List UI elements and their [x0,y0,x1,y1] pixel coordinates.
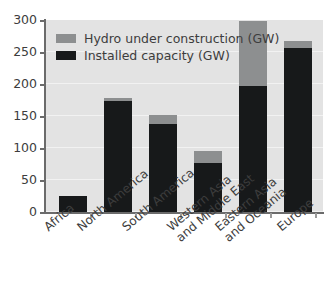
x-tick-mark [315,213,317,218]
y-tick-label-150: 150 [13,110,37,123]
y-tick-mark [40,180,45,182]
y-tick-mark [40,20,45,22]
y-tick-label-100: 100 [13,142,37,155]
legend-swatch-hydro-under-construction [56,34,76,43]
y-tick-mark [40,52,45,54]
y-tick-mark [40,84,45,86]
stacked-bar-chart: 300 250 200 150 100 50 0 Hydro under con… [0,0,331,300]
y-tick-label-250: 250 [13,46,37,59]
y-tick-label-50: 50 [21,174,37,187]
legend: Hydro under construction (GW) Installed … [56,30,279,64]
bar-europe [284,20,312,212]
x-tick-mark [270,213,272,218]
legend-item-installed-capacity: Installed capacity (GW) [56,47,279,64]
legend-item-hydro-under-construction: Hydro under construction (GW) [56,30,279,47]
y-tick-label-200: 200 [13,78,37,91]
y-tick-label-300: 300 [13,14,37,27]
bar-segment-hydro-under-construction [149,115,177,124]
y-tick-mark [40,148,45,150]
y-tick-mark [40,212,45,214]
bar-segment-hydro-under-construction [194,151,222,163]
bar-segment-hydro-under-construction [284,41,312,49]
bar-segment-installed-capacity [284,48,312,212]
legend-swatch-installed-capacity [56,51,76,60]
legend-label: Hydro under construction (GW) [84,32,279,45]
y-tick-mark [40,116,45,118]
bar-segment-hydro-under-construction [104,98,132,101]
y-tick-label-0: 0 [29,206,37,219]
legend-label: Installed capacity (GW) [84,49,230,62]
